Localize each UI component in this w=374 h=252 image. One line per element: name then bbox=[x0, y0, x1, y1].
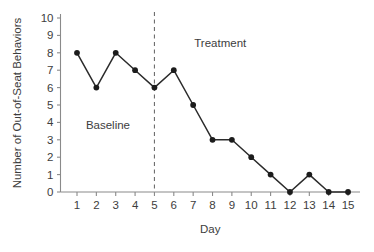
x-axis-group: 123456789101112131415 bbox=[61, 192, 361, 211]
y-tick-label: 0 bbox=[47, 186, 53, 198]
x-tick-label: 3 bbox=[113, 199, 119, 211]
data-point bbox=[171, 67, 177, 73]
data-point bbox=[306, 172, 312, 178]
data-point bbox=[210, 137, 216, 143]
data-point bbox=[132, 67, 138, 73]
data-point bbox=[74, 50, 80, 56]
data-point bbox=[326, 189, 332, 195]
data-point bbox=[152, 85, 158, 91]
y-axis-tick-labels: 012345678910 bbox=[41, 12, 54, 198]
x-tick-label: 14 bbox=[322, 199, 335, 211]
y-tick-label: 6 bbox=[47, 82, 53, 94]
x-tick-label: 7 bbox=[190, 199, 196, 211]
x-tick-label: 9 bbox=[229, 199, 235, 211]
x-tick-label: 1 bbox=[74, 199, 80, 211]
x-tick-label: 13 bbox=[303, 199, 316, 211]
x-axis-tick-marks bbox=[77, 192, 348, 196]
y-tick-label: 8 bbox=[47, 47, 53, 59]
y-axis-title: Number of Out-of-Seat Behaviors bbox=[11, 17, 23, 188]
data-point bbox=[190, 102, 196, 108]
treatment-phase-label: Treatment bbox=[194, 37, 247, 49]
y-tick-label: 5 bbox=[47, 99, 53, 111]
y-tick-label: 9 bbox=[47, 29, 53, 41]
y-tick-label: 4 bbox=[47, 116, 54, 128]
x-tick-label: 15 bbox=[342, 199, 355, 211]
x-tick-label: 8 bbox=[209, 199, 215, 211]
baseline-phase-label: Baseline bbox=[86, 119, 130, 131]
data-point bbox=[345, 189, 351, 195]
y-tick-label: 10 bbox=[41, 12, 54, 24]
x-tick-label: 6 bbox=[171, 199, 177, 211]
y-axis-group: 012345678910 bbox=[41, 12, 61, 198]
x-axis-tick-labels: 123456789101112131415 bbox=[74, 199, 355, 211]
data-point bbox=[248, 154, 254, 160]
x-tick-label: 11 bbox=[265, 199, 277, 211]
phase-annotations: BaselineTreatment bbox=[86, 37, 247, 132]
data-point bbox=[287, 189, 293, 195]
single-subject-line-chart: 012345678910 123456789101112131415 Day N… bbox=[0, 0, 374, 252]
y-tick-label: 1 bbox=[47, 169, 53, 181]
y-tick-label: 2 bbox=[47, 151, 53, 163]
data-point bbox=[93, 85, 99, 91]
chart-canvas: 012345678910 123456789101112131415 Day N… bbox=[0, 0, 374, 252]
y-tick-label: 3 bbox=[47, 134, 53, 146]
x-tick-label: 2 bbox=[93, 199, 99, 211]
y-tick-label: 7 bbox=[47, 64, 53, 76]
x-tick-label: 10 bbox=[245, 199, 258, 211]
x-axis-title: Day bbox=[200, 223, 221, 235]
x-tick-label: 4 bbox=[132, 199, 139, 211]
data-point bbox=[268, 172, 274, 178]
x-tick-label: 5 bbox=[151, 199, 157, 211]
data-point bbox=[113, 50, 119, 56]
data-point bbox=[229, 137, 235, 143]
x-tick-label: 12 bbox=[284, 199, 297, 211]
